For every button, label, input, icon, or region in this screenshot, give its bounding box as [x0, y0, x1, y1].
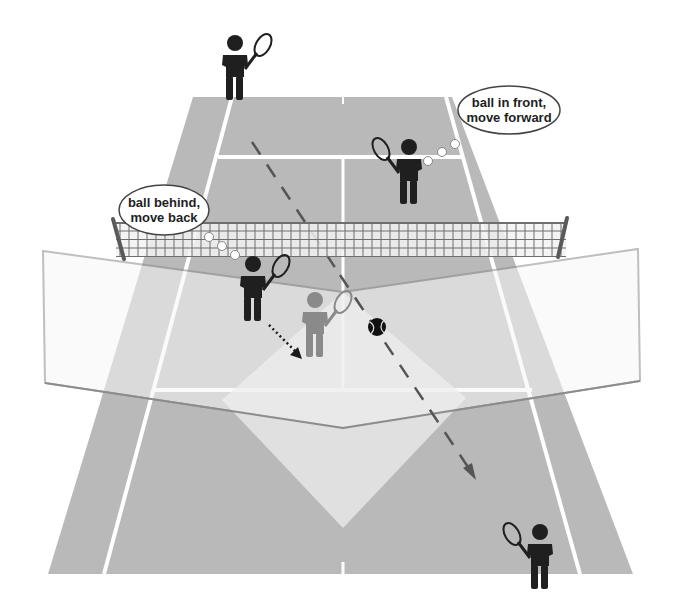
tennis-ball: [368, 318, 386, 336]
court-illustration: [0, 0, 680, 610]
tennis-diagram: ball in front, move forward ball behind,…: [0, 0, 680, 610]
callout-near-line2: move back: [119, 210, 209, 225]
callout-near-line1: ball behind,: [119, 195, 209, 210]
callout-far-text: ball in front, move forward: [459, 95, 559, 125]
callout-near-text: ball behind, move back: [119, 195, 209, 225]
player-far-left-baseline: [222, 31, 275, 100]
callout-far-line2: move forward: [459, 110, 559, 125]
callout-far-line1: ball in front,: [459, 95, 559, 110]
